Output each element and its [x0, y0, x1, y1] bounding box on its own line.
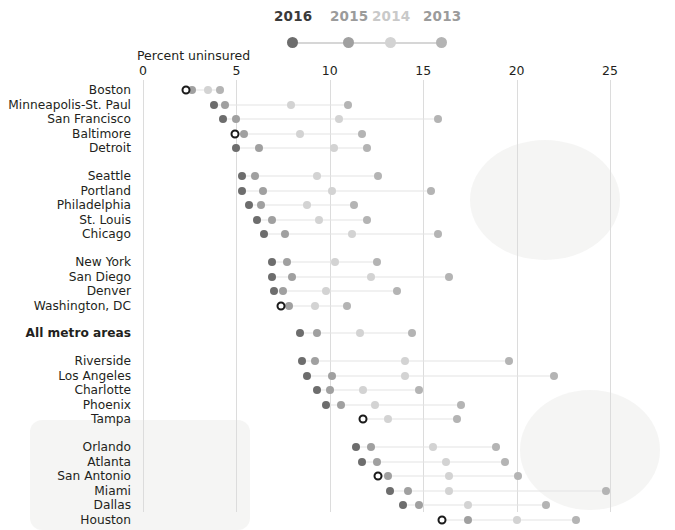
data-point-2013[interactable]: [374, 172, 382, 180]
data-point-2016[interactable]: [437, 516, 446, 525]
data-point-2016[interactable]: [322, 401, 330, 409]
data-point-2015[interactable]: [279, 287, 287, 295]
data-point-2016[interactable]: [219, 115, 227, 123]
data-point-2016[interactable]: [232, 144, 240, 152]
data-point-2015[interactable]: [257, 201, 265, 209]
data-point-2013[interactable]: [434, 115, 442, 123]
data-point-2014[interactable]: [303, 201, 311, 209]
data-point-2016[interactable]: [386, 487, 394, 495]
data-point-2013[interactable]: [343, 302, 351, 310]
legend-dot-2013[interactable]: [436, 37, 447, 48]
data-point-2015[interactable]: [221, 101, 229, 109]
data-point-2014[interactable]: [348, 230, 356, 238]
data-point-2016[interactable]: [359, 415, 368, 424]
legend-dot-2015[interactable]: [343, 37, 354, 48]
data-point-2013[interactable]: [542, 501, 550, 509]
data-point-2014[interactable]: [429, 443, 437, 451]
data-point-2015[interactable]: [326, 386, 334, 394]
data-point-2016[interactable]: [270, 287, 278, 295]
data-point-2015[interactable]: [240, 130, 248, 138]
data-point-2015[interactable]: [367, 443, 375, 451]
legend-year-2015[interactable]: 2015: [330, 8, 368, 24]
data-point-2014[interactable]: [311, 302, 319, 310]
data-point-2016[interactable]: [268, 258, 276, 266]
data-point-2013[interactable]: [457, 401, 465, 409]
data-point-2015[interactable]: [328, 372, 336, 380]
data-point-2014[interactable]: [401, 372, 409, 380]
data-point-2016[interactable]: [181, 86, 190, 95]
data-point-2014[interactable]: [359, 386, 367, 394]
data-point-2016[interactable]: [313, 386, 321, 394]
data-point-2014[interactable]: [464, 501, 472, 509]
data-point-2013[interactable]: [602, 487, 610, 495]
legend-year-2016[interactable]: 2016: [274, 8, 312, 24]
data-point-2013[interactable]: [572, 516, 580, 524]
data-point-2015[interactable]: [311, 357, 319, 365]
data-point-2014[interactable]: [328, 187, 336, 195]
data-point-2015[interactable]: [232, 115, 240, 123]
data-point-2014[interactable]: [401, 357, 409, 365]
data-point-2016[interactable]: [298, 357, 306, 365]
data-point-2015[interactable]: [251, 172, 259, 180]
data-point-2013[interactable]: [514, 472, 522, 480]
legend-dot-2016[interactable]: [287, 37, 298, 48]
data-point-2016[interactable]: [268, 273, 276, 281]
data-point-2014[interactable]: [335, 115, 343, 123]
data-point-2013[interactable]: [363, 216, 371, 224]
data-point-2013[interactable]: [358, 130, 366, 138]
data-point-2013[interactable]: [492, 443, 500, 451]
data-point-2013[interactable]: [393, 287, 401, 295]
data-point-2013[interactable]: [216, 86, 224, 94]
data-point-2013[interactable]: [453, 415, 461, 423]
data-point-2016[interactable]: [374, 472, 383, 481]
legend-year-2013[interactable]: 2013: [423, 8, 461, 24]
data-point-2014[interactable]: [371, 401, 379, 409]
data-point-2016[interactable]: [260, 230, 268, 238]
data-point-2016[interactable]: [358, 458, 366, 466]
data-point-2014[interactable]: [204, 86, 212, 94]
data-point-2015[interactable]: [255, 144, 263, 152]
data-point-2015[interactable]: [313, 329, 321, 337]
data-point-2014[interactable]: [445, 472, 453, 480]
data-point-2015[interactable]: [288, 273, 296, 281]
data-point-2013[interactable]: [434, 230, 442, 238]
data-point-2015[interactable]: [268, 216, 276, 224]
data-point-2013[interactable]: [550, 372, 558, 380]
data-point-2013[interactable]: [427, 187, 435, 195]
data-point-2015[interactable]: [283, 258, 291, 266]
data-point-2016[interactable]: [253, 216, 261, 224]
data-point-2015[interactable]: [373, 458, 381, 466]
data-point-2013[interactable]: [501, 458, 509, 466]
data-point-2016[interactable]: [277, 301, 286, 310]
data-point-2015[interactable]: [281, 230, 289, 238]
data-point-2014[interactable]: [331, 258, 339, 266]
data-point-2014[interactable]: [367, 273, 375, 281]
legend-year-2014[interactable]: 2014: [372, 8, 410, 24]
data-point-2013[interactable]: [363, 144, 371, 152]
data-point-2014[interactable]: [442, 458, 450, 466]
data-point-2014[interactable]: [330, 144, 338, 152]
data-point-2016[interactable]: [352, 443, 360, 451]
legend-dot-2014[interactable]: [385, 37, 396, 48]
data-point-2015[interactable]: [285, 302, 293, 310]
data-point-2016[interactable]: [230, 129, 239, 138]
data-point-2015[interactable]: [415, 501, 423, 509]
data-point-2014[interactable]: [445, 487, 453, 495]
data-point-2013[interactable]: [415, 386, 423, 394]
data-point-2014[interactable]: [513, 516, 521, 524]
data-point-2014[interactable]: [296, 130, 304, 138]
data-point-2014[interactable]: [356, 329, 364, 337]
data-point-2015[interactable]: [464, 516, 472, 524]
data-point-2013[interactable]: [445, 273, 453, 281]
data-point-2016[interactable]: [238, 187, 246, 195]
data-point-2015[interactable]: [259, 187, 267, 195]
data-point-2016[interactable]: [303, 372, 311, 380]
data-point-2013[interactable]: [350, 201, 358, 209]
data-point-2014[interactable]: [313, 172, 321, 180]
data-point-2014[interactable]: [322, 287, 330, 295]
data-point-2015[interactable]: [337, 401, 345, 409]
data-point-2016[interactable]: [210, 101, 218, 109]
data-point-2015[interactable]: [384, 472, 392, 480]
data-point-2013[interactable]: [373, 258, 381, 266]
data-point-2016[interactable]: [245, 201, 253, 209]
